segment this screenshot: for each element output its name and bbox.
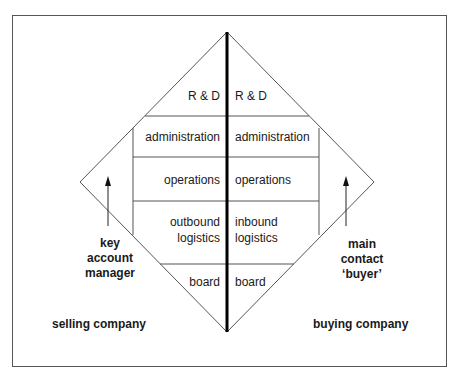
left-rd-label: R & D bbox=[188, 88, 220, 104]
left-ops-label: operations bbox=[164, 172, 220, 188]
left-board-label: board bbox=[189, 274, 220, 290]
right-role-label: main contact ‘buyer’ bbox=[312, 237, 412, 282]
left-log-label-1: outbound bbox=[170, 214, 220, 230]
left-admin-label: administration bbox=[145, 129, 220, 145]
right-ops-label: operations bbox=[235, 172, 291, 188]
buying-company-label: buying company bbox=[313, 316, 408, 332]
left-role-label: key account manager bbox=[60, 236, 160, 281]
right-log-label-1: inbound bbox=[235, 214, 278, 230]
right-board-label: board bbox=[235, 274, 266, 290]
right-rd-label: R & D bbox=[235, 88, 267, 104]
left-arrow-head-icon bbox=[105, 176, 111, 186]
right-admin-label: administration bbox=[235, 129, 310, 145]
selling-company-label: selling company bbox=[52, 316, 146, 332]
right-role-line-2: contact bbox=[312, 252, 412, 267]
left-role-line-1: key bbox=[60, 236, 160, 251]
left-log-label-2: logistics bbox=[177, 230, 220, 246]
right-role-line-1: main bbox=[312, 237, 412, 252]
right-role-line-3: ‘buyer’ bbox=[312, 267, 412, 282]
left-role-line-3: manager bbox=[60, 266, 160, 281]
left-role-line-2: account bbox=[60, 251, 160, 266]
right-arrow-head-icon bbox=[343, 176, 349, 186]
right-log-label-2: logistics bbox=[235, 230, 278, 246]
